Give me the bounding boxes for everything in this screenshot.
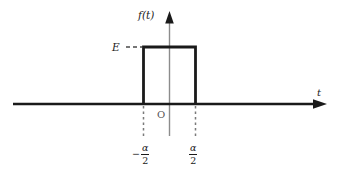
right-bound-numerator: α	[189, 143, 197, 154]
horizontal-axis-arrowhead	[313, 99, 327, 109]
vertical-axis-arrowhead	[165, 11, 174, 24]
x-tick-label-right-bound: α 2	[188, 143, 197, 165]
x-axis-label-t: t	[317, 88, 321, 98]
rectangular-pulse-figure: f(t) E t O − α 2 α 2	[0, 0, 338, 174]
y-axis-label-ft: f(t)	[138, 10, 154, 21]
right-bound-fraction: α 2	[189, 143, 197, 165]
x-tick-label-left-bound: − α 2	[132, 143, 149, 165]
plot-canvas	[0, 0, 338, 174]
left-bound-minus-sign: −	[132, 149, 140, 159]
amplitude-label-E: E	[112, 42, 120, 53]
left-bound-numerator: α	[141, 143, 149, 154]
left-bound-denominator: 2	[141, 155, 149, 166]
right-bound-denominator: 2	[189, 155, 197, 166]
left-bound-fraction: α 2	[141, 143, 149, 165]
origin-label: O	[157, 110, 165, 120]
